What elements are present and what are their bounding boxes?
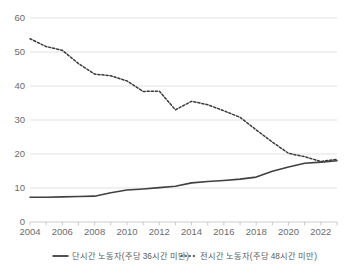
x-axis-label-2010: 2010	[116, 226, 137, 237]
x-axis-label-2022: 2022	[310, 226, 331, 237]
gridlines-group	[30, 18, 337, 222]
x-axis-label-2018: 2018	[246, 226, 267, 237]
y-axis-label-60: 60	[14, 12, 25, 23]
y-axis-label-50: 50	[14, 46, 25, 57]
legend-label-short-hours-workers: 단시간 노동자(주당 36시간 미만)	[72, 251, 190, 261]
y-axis-tick-labels: 0102030405060	[14, 12, 25, 227]
x-axis-label-2004: 2004	[19, 226, 40, 237]
legend-label-full-time-workers: 전시간 노동자(주당 48시간 미만)	[200, 251, 318, 261]
y-axis-label-40: 40	[14, 80, 25, 91]
series-line-short-hours-workers	[30, 161, 337, 197]
series-line-full-time-workers	[30, 39, 337, 162]
y-axis-label-10: 10	[14, 182, 25, 193]
line-chart: 0102030405060 20042006200820102012201420…	[0, 0, 347, 275]
x-axis-label-2012: 2012	[149, 226, 170, 237]
x-axis-label-2006: 2006	[52, 226, 73, 237]
x-axis-label-2014: 2014	[181, 226, 202, 237]
x-axis-tick-marks	[30, 222, 337, 226]
x-axis-label-2008: 2008	[84, 226, 105, 237]
y-axis-label-20: 20	[14, 148, 25, 159]
x-axis-label-2020: 2020	[278, 226, 299, 237]
y-axis-label-30: 30	[14, 114, 25, 125]
x-axis-label-2016: 2016	[213, 226, 234, 237]
chart-canvas: 0102030405060 20042006200820102012201420…	[0, 0, 347, 275]
legend: 단시간 노동자(주당 36시간 미만) 전시간 노동자(주당 48시간 미만)	[53, 251, 318, 261]
x-axis-tick-labels: 2004200620082010201220142016201820202022	[19, 226, 331, 237]
